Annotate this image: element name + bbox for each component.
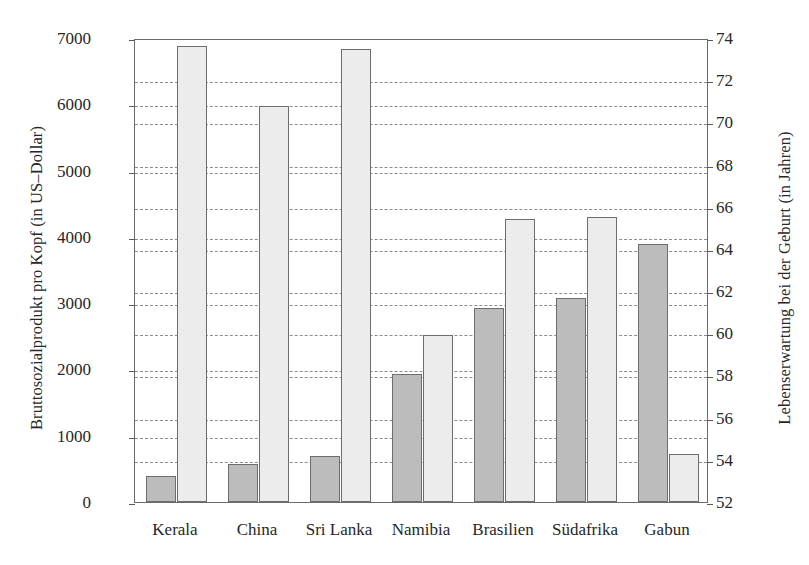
right-axis-tick <box>707 40 713 41</box>
left-axis-tick <box>129 239 135 240</box>
x-axis-category-label: Kerala <box>134 521 216 538</box>
bar-life-expectancy-china <box>259 106 289 503</box>
right-axis-tick <box>707 209 713 210</box>
right-axis-tick <box>707 420 713 421</box>
bar-life-expectancy-südafrika <box>587 217 617 502</box>
bar-life-expectancy-gabun <box>669 454 699 503</box>
right-axis-tick-label: 60 <box>716 325 733 342</box>
right-axis-tick-label: 52 <box>716 494 733 511</box>
left-axis-tick <box>129 173 135 174</box>
left-axis-tick-label: 3000 <box>57 295 91 312</box>
right-axis-tick-label: 68 <box>716 157 733 174</box>
x-axis-category-label: Brasilien <box>462 521 544 538</box>
bar-gdp-gabun <box>638 244 668 502</box>
right-axis-tick <box>707 293 713 294</box>
left-axis-tick-label: 0 <box>83 494 92 511</box>
right-axis-tick-label: 56 <box>716 410 733 427</box>
right-axis-tick-label: 64 <box>716 241 733 258</box>
left-axis-tick-label: 4000 <box>57 229 91 246</box>
right-axis-tick-label: 70 <box>716 114 733 131</box>
right-axis-tick <box>707 504 713 505</box>
bar-gdp-brasilien <box>474 308 504 502</box>
right-axis-tick <box>707 82 713 83</box>
left-axis-tick <box>129 438 135 439</box>
bar-life-expectancy-brasilien <box>505 219 535 502</box>
left-axis-tick <box>129 106 135 107</box>
right-axis-tick-label: 72 <box>716 72 733 89</box>
y-axis-left-title: Bruttosozialprodukt pro Kopf (in US–Doll… <box>27 53 47 503</box>
right-axis-tick <box>707 124 713 125</box>
right-axis-tick-label: 74 <box>716 30 733 47</box>
x-axis-category-label: Sri Lanka <box>298 521 380 538</box>
bar-life-expectancy-kerala <box>177 46 207 502</box>
right-axis-tick <box>707 335 713 336</box>
left-axis-tick-label: 6000 <box>57 96 91 113</box>
x-axis-category-label: Namibia <box>380 521 462 538</box>
bar-gdp-namibia <box>392 374 422 502</box>
chart-figure: Bruttosozialprodukt pro Kopf (in US–Doll… <box>0 0 809 565</box>
plot-area <box>134 39 708 503</box>
left-axis-tick <box>129 371 135 372</box>
bar-series-group <box>135 40 707 502</box>
bar-gdp-kerala <box>146 476 176 503</box>
right-axis-tick-label: 58 <box>716 367 733 384</box>
y-axis-right-title: Lebenserwartung bei der Geburt (in Jahre… <box>775 53 795 503</box>
x-axis-category-label: Südafrika <box>544 521 626 538</box>
bar-life-expectancy-sri-lanka <box>341 49 371 502</box>
right-axis-tick-label: 62 <box>716 283 733 300</box>
left-axis-tick <box>129 305 135 306</box>
right-axis-tick <box>707 377 713 378</box>
left-axis-tick <box>129 504 135 505</box>
right-axis-tick <box>707 251 713 252</box>
bar-life-expectancy-namibia <box>423 335 453 502</box>
left-axis-tick-label: 5000 <box>57 163 91 180</box>
bar-gdp-china <box>228 464 258 502</box>
bar-gdp-südafrika <box>556 298 586 502</box>
left-axis-tick <box>129 40 135 41</box>
right-axis-tick-label: 54 <box>716 452 733 469</box>
left-axis-tick-label: 7000 <box>57 30 91 47</box>
x-axis-category-label: China <box>216 521 298 538</box>
left-axis-tick-label: 2000 <box>57 361 91 378</box>
bar-gdp-sri-lanka <box>310 456 340 502</box>
left-axis-tick-label: 1000 <box>57 428 91 445</box>
right-axis-tick <box>707 462 713 463</box>
x-axis-category-label: Gabun <box>626 521 708 538</box>
right-axis-tick <box>707 167 713 168</box>
right-axis-tick-label: 66 <box>716 199 733 216</box>
